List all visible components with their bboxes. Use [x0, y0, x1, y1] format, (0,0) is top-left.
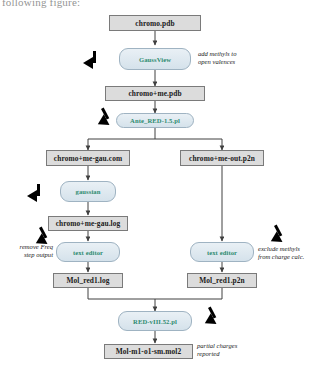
node-mol-red1-log[interactable]: Mol_red1.log — [53, 273, 123, 288]
cursor-triangle-icon — [83, 57, 93, 69]
node-label: text editor — [73, 249, 103, 256]
node-chromo-me-pdb[interactable]: chromo+me.pdb — [105, 86, 205, 101]
node-label: RED-vIII.52.pl — [133, 318, 177, 325]
annotation-exclude-methyls: exclude methyls from charge calc. — [258, 245, 311, 262]
annotation-partial-charges: partial charges reported — [197, 342, 257, 359]
node-red-script[interactable]: RED-vIII.52.pl — [118, 311, 192, 331]
node-text-editor-right[interactable]: text editor — [190, 242, 254, 262]
node-label: Mol_red1.log — [66, 276, 109, 285]
node-chromo-pdb[interactable]: chromo.pdb — [109, 15, 201, 31]
node-label: chromo.pdb — [135, 19, 174, 28]
node-label: chromo+me.pdb — [128, 89, 181, 98]
node-mol-red1-p2n[interactable]: Mol_red1.p2n — [187, 273, 257, 288]
node-label: Mol_red1.p2n — [199, 276, 245, 285]
flowchart-diagram: chromo.pdb GaussView chromo+me.pdb Ante_… — [0, 0, 311, 374]
annotation-add-methyls: add methyls to open valences — [198, 50, 278, 67]
node-ante-red-script[interactable]: Ante_RED-1.5.pl — [116, 113, 194, 128]
node-label: chromo+me-gau.log — [56, 219, 121, 228]
node-gaussian[interactable]: gaussian — [60, 181, 116, 202]
node-label: chromo+me-gau.com — [54, 154, 122, 163]
annotation-remove-freq: remove Freq step output — [0, 243, 53, 260]
node-chromo-me-gau-com[interactable]: chromo+me-gau.com — [46, 150, 130, 166]
node-label: text editor — [207, 249, 237, 256]
node-label: chromo+me-out.p2n — [189, 154, 255, 163]
node-mol-m1-o1-sm-mol2[interactable]: Mol-m1-o1-sm.mol2 — [104, 344, 193, 359]
cursor-triangle-icon — [27, 190, 37, 202]
node-chromo-me-gau-log[interactable]: chromo+me-gau.log — [48, 216, 128, 231]
node-label: GaussView — [139, 56, 171, 63]
node-gaussview[interactable]: GaussView — [119, 48, 191, 70]
cursor-bar-icon — [37, 184, 40, 196]
node-text-editor-left[interactable]: text editor — [56, 242, 120, 262]
node-label: Ante_RED-1.5.pl — [130, 117, 180, 124]
cursor-bar-icon — [93, 51, 96, 63]
node-chromo-me-out-p2n[interactable]: chromo+me-out.p2n — [180, 150, 264, 166]
node-label: gaussian — [76, 188, 101, 195]
node-label: Mol-m1-o1-sm.mol2 — [116, 347, 182, 356]
